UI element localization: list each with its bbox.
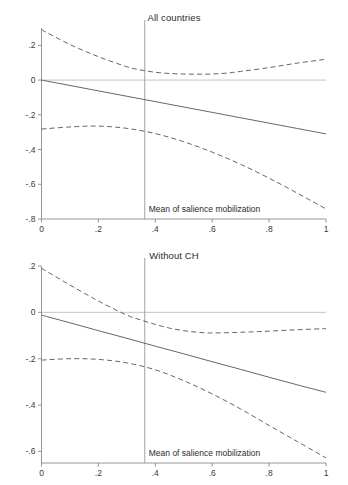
x-tick-label: .2: [95, 224, 102, 234]
series-lower-95-ci: [42, 126, 327, 209]
figure-caption: [4, 476, 344, 484]
y-tick-label: -.2: [26, 354, 36, 364]
y-tick-label: -.4: [26, 400, 36, 410]
series-marginal-effect: [42, 315, 327, 392]
x-tick-label: .4: [152, 224, 159, 234]
chart-panel-all-countries: All countries .20-.2-.4-.6-.80.2.4.6.81M…: [0, 0, 348, 240]
y-tick-label: -.8: [26, 214, 36, 224]
x-tick-label: 0: [39, 224, 44, 234]
x-tick-label: .6: [209, 224, 216, 234]
series-upper-95-ci: [42, 268, 327, 333]
series-lower-95-ci: [42, 359, 327, 458]
series-upper-95-ci: [42, 30, 327, 74]
mean-reference-label: Mean of salience mobilization: [149, 204, 261, 214]
y-tick-label: 0: [31, 75, 36, 85]
y-tick-label: -.4: [26, 145, 36, 155]
plot-area-without-ch: .20-.2-.4-.60.2.4.6.81Mean of salience m…: [0, 240, 348, 485]
figure-container: All countries .20-.2-.4-.6-.80.2.4.6.81M…: [0, 0, 348, 485]
y-tick-label: -.6: [26, 446, 36, 456]
x-tick-label: .8: [266, 224, 273, 234]
y-tick-label: .2: [28, 40, 35, 50]
mean-reference-label: Mean of salience mobilization: [149, 448, 261, 458]
chart-panel-without-ch: Without CH .20-.2-.4-.60.2.4.6.81Mean of…: [0, 240, 348, 485]
y-tick-label: -.6: [26, 179, 36, 189]
plot-area-all-countries: .20-.2-.4-.6-.80.2.4.6.81Mean of salienc…: [0, 0, 348, 240]
y-tick-label: .2: [28, 261, 35, 271]
y-tick-label: -.2: [26, 110, 36, 120]
x-tick-label: 1: [324, 224, 329, 234]
y-tick-label: 0: [31, 307, 36, 317]
